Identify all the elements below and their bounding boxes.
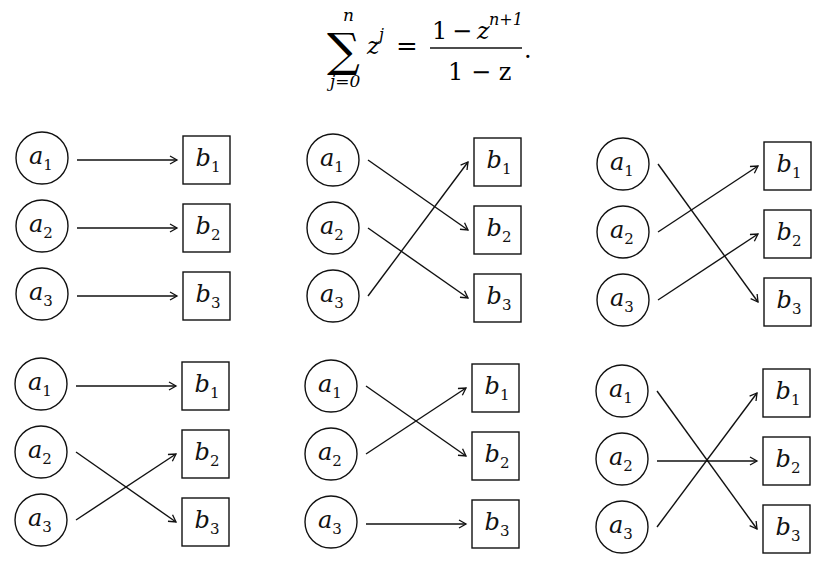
source-node-label: a2: [320, 212, 344, 244]
source-node-label: a3: [610, 284, 634, 316]
target-node-label: b1: [487, 146, 512, 178]
diagram-root: a1b1a2b2a3b3a1b1a2b2a3b3a1b1a2b2a3b3a1b1…: [15, 132, 811, 553]
source-node-label: a2: [318, 438, 342, 470]
bijection-diagrams: a1b1a2b2a3b3a1b1a2b2a3b3a1b1a2b2a3b3a1b1…: [0, 0, 830, 561]
source-node-label: a1: [28, 368, 52, 400]
source-node-label: a3: [320, 280, 344, 312]
source-node-label: a1: [318, 370, 342, 402]
source-node-label: a2: [609, 443, 633, 475]
target-node-label: b1: [485, 372, 510, 404]
diagram-bottom-middle: a1b1a2b2a3b3: [305, 360, 519, 548]
mapping-arrow: [368, 228, 468, 298]
source-node-label: a1: [320, 144, 344, 176]
source-node-label: a3: [318, 506, 342, 538]
target-node-label: b3: [195, 506, 220, 538]
mapping-arrow: [76, 454, 176, 520]
target-node-label: b2: [776, 445, 801, 477]
target-node-label: b3: [776, 513, 801, 545]
mapping-arrow: [368, 162, 468, 296]
source-node-label: a3: [29, 278, 53, 310]
target-node-label: b1: [776, 377, 801, 409]
diagram-bottom-right: a1b1a2b2a3b3: [596, 365, 810, 553]
target-node-label: b1: [777, 150, 802, 182]
source-node-label: a3: [609, 511, 633, 543]
target-node-label: b2: [487, 214, 512, 246]
diagram-top-right: a1b1a2b2a3b3: [597, 138, 811, 326]
source-node-label: a3: [28, 504, 52, 536]
target-node-label: b1: [195, 370, 220, 402]
mapping-arrow: [368, 160, 468, 230]
target-node-label: b3: [485, 508, 510, 540]
source-node-label: a2: [28, 436, 52, 468]
source-node-label: a2: [29, 210, 53, 242]
target-node-label: b3: [196, 280, 221, 312]
diagram-top-middle: a1b1a2b2a3b3: [307, 134, 521, 322]
mapping-arrow: [658, 234, 758, 300]
source-node-label: a1: [609, 375, 633, 407]
source-node-label: a1: [29, 142, 53, 174]
target-node-label: b3: [777, 286, 802, 318]
diagram-top-left: a1b1a2b2a3b3: [16, 132, 230, 320]
target-node-label: b2: [196, 212, 221, 244]
mapping-arrow: [366, 388, 466, 454]
target-node-label: b3: [487, 282, 512, 314]
mapping-arrow: [658, 166, 758, 232]
target-node-label: b2: [195, 438, 220, 470]
mapping-arrow: [658, 164, 758, 302]
mapping-arrow: [657, 393, 757, 527]
target-node-label: b2: [485, 440, 510, 472]
target-node-label: b1: [196, 144, 221, 176]
source-node-label: a2: [610, 216, 634, 248]
diagram-bottom-left: a1b1a2b2a3b3: [15, 358, 229, 546]
source-node-label: a1: [610, 148, 634, 180]
target-node-label: b2: [777, 218, 802, 250]
